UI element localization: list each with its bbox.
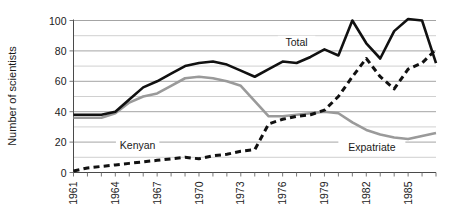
- y-tick-label: 0: [61, 167, 67, 179]
- series-line-expatriate: [74, 77, 437, 139]
- y-axis: [70, 20, 74, 173]
- x-axis: [74, 173, 437, 177]
- series-annotation-total: Total: [285, 36, 307, 48]
- x-tick-label: 1964: [109, 181, 121, 205]
- chart-container: 020406080100 196119641967197019731976197…: [0, 0, 453, 210]
- x-tick-label: 1985: [402, 181, 414, 205]
- series-annotation-kenyan: Kenyan: [120, 139, 156, 151]
- x-tick-labels: 196119641967197019731976197919821985: [67, 181, 414, 205]
- y-tick-label: 40: [55, 106, 67, 118]
- y-tick-label: 100: [49, 15, 67, 27]
- y-tick-label: 20: [55, 136, 67, 148]
- x-tick-label: 1979: [318, 181, 330, 205]
- y-tick-label: 80: [55, 45, 67, 57]
- series-annotation-expatriate: Expatriate: [348, 141, 395, 153]
- y-tick-labels: 020406080100: [49, 15, 67, 179]
- x-tick-label: 1967: [151, 181, 163, 205]
- y-axis-title: Number of scientists: [6, 46, 18, 146]
- x-tick-label: 1973: [234, 181, 246, 205]
- x-tick-label: 1976: [276, 181, 288, 205]
- x-tick-label: 1961: [67, 181, 79, 205]
- line-chart: 020406080100 196119641967197019731976197…: [0, 0, 453, 210]
- x-tick-label: 1970: [193, 181, 205, 205]
- y-tick-label: 60: [55, 75, 67, 87]
- gridlines: [74, 21, 437, 158]
- x-tick-label: 1982: [360, 181, 372, 205]
